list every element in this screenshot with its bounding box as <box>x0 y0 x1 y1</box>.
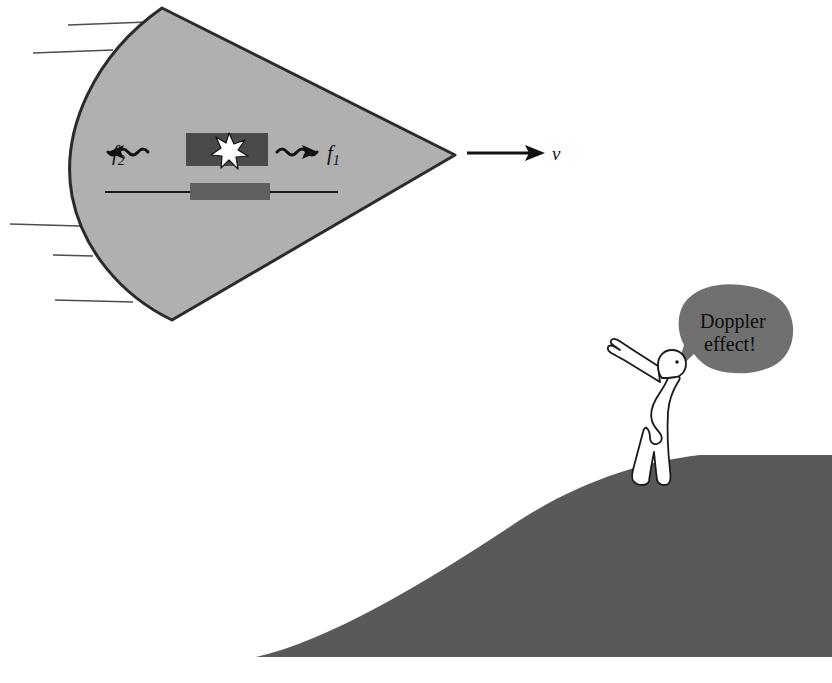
doppler-effect-figure: f2 f1 v Doppler effect! <box>0 0 832 683</box>
wake-line-1 <box>68 22 148 25</box>
person-head <box>658 350 686 378</box>
aircraft-wing <box>190 183 270 200</box>
wake-line-2 <box>33 50 113 53</box>
person-arm <box>608 339 660 382</box>
speech-bubble-group: Doppler effect! <box>676 284 793 373</box>
hill <box>256 455 832 657</box>
speech-bubble-line-1: Doppler <box>700 310 766 333</box>
person-eye <box>675 360 679 364</box>
wake-line-3 <box>10 224 80 226</box>
figure-canvas: f2 f1 v Doppler effect! <box>0 0 832 683</box>
velocity-label: v <box>552 143 561 164</box>
velocity-arrow-group: v <box>467 143 561 164</box>
wake-line-5 <box>55 300 133 302</box>
speech-bubble-line-2: effect! <box>704 333 756 355</box>
wake-line-4 <box>53 255 93 256</box>
